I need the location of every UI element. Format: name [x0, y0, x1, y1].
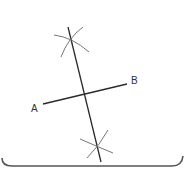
diagram-canvas: A B — [0, 0, 184, 175]
perpendicular-bisector — [68, 27, 101, 162]
frame-border — [2, 156, 183, 166]
point-b-label: B — [131, 75, 138, 86]
point-a-label: A — [31, 103, 38, 114]
